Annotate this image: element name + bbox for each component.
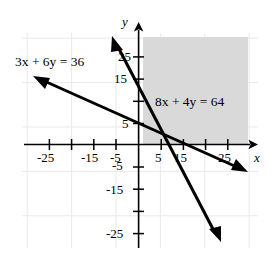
equation-label-line1: 3x + 6y = 36 bbox=[15, 54, 84, 70]
xtick-label-5: 5 bbox=[155, 150, 162, 166]
ytick-label-25: 25 bbox=[118, 49, 131, 65]
xtick-label-25: 25 bbox=[218, 150, 231, 166]
ytick-label--15: -15 bbox=[106, 182, 123, 198]
ytick-label-5: 5 bbox=[122, 116, 129, 132]
graph-figure: y x 3x + 6y = 36 8x + 4y = 64 -25 -15 -5… bbox=[0, 0, 276, 255]
xtick-label--25: -25 bbox=[37, 150, 54, 166]
y-axis-label: y bbox=[122, 14, 128, 30]
ytick-label--5: -5 bbox=[112, 158, 123, 174]
x-axis-label: x bbox=[254, 150, 260, 166]
equation-label-line2: 8x + 4y = 64 bbox=[155, 94, 224, 110]
ytick-label--25: -25 bbox=[106, 226, 123, 242]
ytick-label-15: 15 bbox=[114, 71, 127, 87]
xtick-label--15: -15 bbox=[81, 150, 98, 166]
xtick-label-15: 15 bbox=[174, 150, 187, 166]
